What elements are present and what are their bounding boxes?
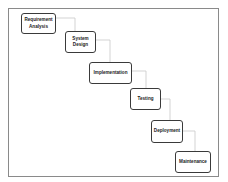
connector-testing-to-deployment bbox=[161, 99, 170, 120]
stage-implementation: Implementation bbox=[89, 62, 132, 84]
stage-requirement-analysis: Requirement Analysis bbox=[21, 13, 56, 34]
connector-design-to-implementation bbox=[96, 40, 110, 62]
connector-implementation-to-testing bbox=[132, 71, 146, 88]
stage-maintenance: Maintenance bbox=[175, 151, 211, 173]
connector-requirement-to-design bbox=[56, 18, 75, 31]
connector-deployment-to-maintenance bbox=[183, 131, 195, 151]
stage-deployment: Deployment bbox=[151, 120, 183, 143]
stage-system-design: System Design bbox=[65, 31, 96, 53]
stage-testing: Testing bbox=[130, 88, 161, 110]
